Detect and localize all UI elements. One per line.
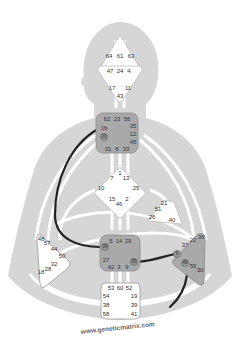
gate-36: 36 xyxy=(198,234,205,240)
gate-17: 17 xyxy=(109,85,116,91)
gate-42: 42 xyxy=(108,264,115,270)
gate-38: 38 xyxy=(103,302,110,308)
gate-33: 33 xyxy=(123,146,130,152)
gate-37: 37 xyxy=(182,242,189,248)
gate-63: 63 xyxy=(128,53,135,59)
gate-28: 28 xyxy=(45,266,52,272)
gate-61: 61 xyxy=(117,53,124,59)
gate-47: 47 xyxy=(107,68,114,74)
gate-58: 58 xyxy=(103,311,110,317)
root-center[interactable]: 53 60 52 54 19 38 39 58 41 xyxy=(101,283,140,319)
gate-12: 12 xyxy=(130,131,137,137)
gate-21: 21 xyxy=(161,200,168,206)
gate-31: 31 xyxy=(105,146,112,152)
gate-53: 53 xyxy=(108,285,115,291)
gate-49: 49 xyxy=(182,260,188,265)
gate-27: 27 xyxy=(103,257,110,263)
gate-25: 25 xyxy=(133,185,140,191)
gate-39: 39 xyxy=(131,302,138,308)
gate-59: 59 xyxy=(131,259,137,264)
gate-13: 13 xyxy=(123,175,130,181)
gate-22: 22 xyxy=(190,237,197,243)
bodygraph-chart: 64 61 63 47 24 4 17 11 43 62 23 56 16 35… xyxy=(0,0,241,350)
gate-52: 52 xyxy=(126,285,133,291)
gate-60: 60 xyxy=(117,285,124,291)
gate-34: 34 xyxy=(102,244,108,249)
gate-30: 30 xyxy=(197,267,204,273)
gate-40: 40 xyxy=(169,217,176,223)
gate-23: 23 xyxy=(114,116,121,122)
gate-35: 35 xyxy=(130,123,137,129)
gate-54: 54 xyxy=(103,293,110,299)
gate-10: 10 xyxy=(98,185,105,191)
gate-11: 11 xyxy=(125,85,132,91)
gate-26: 26 xyxy=(149,214,156,220)
gate-51: 51 xyxy=(155,206,162,212)
gate-20: 20 xyxy=(101,134,107,139)
gate-19: 19 xyxy=(131,293,138,299)
sacral-center[interactable]: 34 5 14 29 59 27 42 3 9 xyxy=(100,235,140,271)
gate-24: 24 xyxy=(117,68,124,74)
gate-62: 62 xyxy=(104,116,111,122)
gate-45: 45 xyxy=(130,139,137,145)
gate-32: 32 xyxy=(51,261,58,267)
gate-64: 64 xyxy=(106,53,113,59)
gate-18: 18 xyxy=(38,269,45,275)
gate-14: 14 xyxy=(116,238,123,244)
gate-2: 46 xyxy=(116,201,123,207)
gate-43: 43 xyxy=(117,93,124,99)
watermark: www.geneticmatrix.com xyxy=(79,320,155,336)
gate-44: 44 xyxy=(51,246,58,252)
gate-29: 29 xyxy=(125,238,132,244)
gate-50: 50 xyxy=(59,253,66,259)
gate-16: 16 xyxy=(101,125,108,131)
gate-41: 41 xyxy=(131,311,138,317)
throat-center[interactable]: 62 23 56 16 35 12 20 45 31 8 33 xyxy=(96,113,138,153)
gate-56: 56 xyxy=(124,116,131,122)
